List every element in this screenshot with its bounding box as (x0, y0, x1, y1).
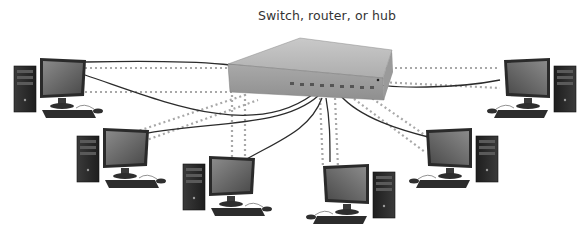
desktop-computer-icon (306, 164, 395, 224)
desktop-computer-icon (183, 156, 272, 216)
network-switch-icon (228, 38, 393, 100)
desktop-computer-icon (77, 128, 166, 188)
desktop-computer-icon (409, 128, 498, 188)
desktop-computer-icon (487, 58, 576, 118)
network-diagram (0, 0, 588, 235)
desktop-computer-icon (14, 58, 103, 118)
